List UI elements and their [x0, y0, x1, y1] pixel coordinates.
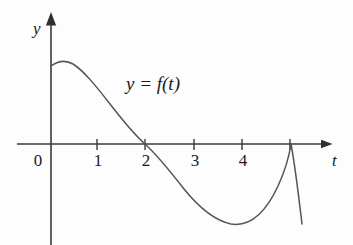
tick-label-1: 1	[88, 152, 108, 169]
tick-label-4: 4	[233, 152, 253, 169]
curve-equation-label: y = f(t)	[126, 74, 180, 93]
tick-label-3: 3	[185, 152, 205, 169]
function-graph-figure: y t y = f(t) 0 1 2 3 4	[0, 0, 353, 245]
y-axis-label: y	[33, 20, 41, 37]
tick-label-0: 0	[28, 152, 48, 169]
tick-label-2: 2	[136, 152, 156, 169]
graph-canvas	[0, 0, 353, 245]
t-axis-label: t	[332, 152, 337, 169]
